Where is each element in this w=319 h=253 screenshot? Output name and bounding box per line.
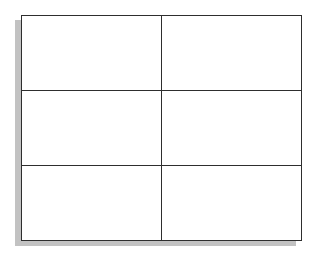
table-row (22, 16, 302, 91)
table-cell (162, 91, 302, 166)
table-cell (162, 16, 302, 91)
canvas (0, 0, 319, 253)
table-body (22, 16, 302, 241)
table-row (22, 166, 302, 241)
table-cell (22, 16, 162, 91)
table-cell (22, 91, 162, 166)
table-row (22, 91, 302, 166)
table-cell (22, 166, 162, 241)
empty-table (21, 15, 302, 241)
table-cell (162, 166, 302, 241)
